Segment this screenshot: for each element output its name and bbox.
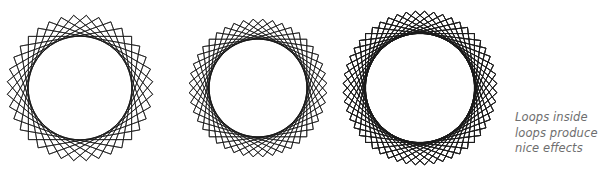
square-outline bbox=[343, 11, 497, 165]
square-outline bbox=[343, 11, 497, 165]
caption-line-3: nice effects bbox=[515, 141, 599, 157]
square-outline bbox=[189, 19, 327, 157]
square-outline bbox=[344, 12, 495, 163]
caption-block: Loops inside loops produce nice effects bbox=[515, 110, 599, 157]
square-outline bbox=[346, 14, 493, 161]
square-outline bbox=[7, 15, 152, 160]
square-outline bbox=[346, 14, 493, 161]
square-outline bbox=[189, 19, 327, 157]
square-outline bbox=[366, 34, 475, 143]
square-outline bbox=[203, 33, 313, 143]
square-outline bbox=[346, 14, 493, 161]
square-outline bbox=[354, 22, 486, 154]
square-outline bbox=[344, 12, 495, 163]
figure-panel-2 bbox=[189, 19, 327, 157]
square-outline bbox=[343, 11, 497, 165]
square-outline bbox=[20, 28, 140, 148]
square-outline bbox=[354, 22, 486, 154]
diagram-stage: Loops inside loops produce nice effects bbox=[0, 0, 599, 179]
square-outline bbox=[191, 21, 326, 156]
square-outline bbox=[346, 14, 493, 161]
square-outline bbox=[7, 15, 152, 160]
square-outline bbox=[354, 22, 486, 154]
square-outline bbox=[28, 36, 131, 139]
square-outline bbox=[189, 19, 327, 157]
square-outline bbox=[343, 11, 497, 165]
square-outline bbox=[9, 17, 150, 158]
square-outline bbox=[20, 28, 140, 148]
square-outline bbox=[193, 23, 322, 152]
square-outline bbox=[14, 22, 146, 154]
square-outline bbox=[9, 17, 150, 158]
square-outline bbox=[191, 21, 326, 156]
square-outline bbox=[346, 14, 493, 161]
square-outline bbox=[344, 12, 495, 163]
square-outline bbox=[7, 15, 152, 160]
square-outline bbox=[344, 12, 495, 163]
square-outline bbox=[193, 23, 322, 152]
square-outline bbox=[203, 33, 313, 143]
square-outline bbox=[344, 12, 495, 163]
caption-line-1: Loops inside bbox=[515, 110, 599, 126]
square-outline bbox=[197, 27, 318, 148]
square-outline bbox=[354, 22, 486, 154]
square-outline bbox=[209, 39, 307, 137]
square-outline bbox=[346, 14, 493, 161]
square-outline bbox=[9, 17, 150, 158]
square-outline bbox=[354, 22, 486, 154]
square-outline bbox=[366, 34, 475, 143]
square-outline bbox=[197, 27, 318, 148]
square-outline bbox=[354, 22, 486, 154]
square-outline bbox=[20, 28, 140, 148]
square-outline bbox=[9, 17, 150, 158]
square-outline bbox=[344, 12, 495, 163]
square-outline bbox=[193, 23, 322, 152]
square-outline bbox=[343, 11, 497, 165]
square-outline bbox=[193, 23, 322, 152]
spirograph-canvas bbox=[0, 0, 599, 179]
square-outline bbox=[7, 15, 152, 160]
square-outline bbox=[191, 21, 326, 156]
square-outline bbox=[20, 28, 140, 148]
square-outline bbox=[191, 21, 326, 156]
square-outline bbox=[343, 11, 497, 165]
figure-panel-3 bbox=[343, 11, 497, 165]
square-outline bbox=[14, 22, 146, 154]
square-outline bbox=[343, 11, 497, 165]
square-outline bbox=[197, 27, 318, 148]
square-outline bbox=[28, 36, 131, 139]
square-outline bbox=[203, 33, 313, 143]
square-outline bbox=[344, 12, 495, 163]
square-outline bbox=[189, 19, 327, 157]
square-outline bbox=[346, 14, 493, 161]
square-outline bbox=[14, 22, 146, 154]
square-outline bbox=[209, 39, 307, 137]
square-outline bbox=[346, 14, 493, 161]
square-outline bbox=[14, 22, 146, 154]
square-outline bbox=[354, 22, 486, 154]
square-outline bbox=[344, 12, 495, 163]
square-outline bbox=[203, 33, 313, 143]
square-outline bbox=[366, 34, 475, 143]
figure-panel-1 bbox=[7, 15, 152, 160]
square-outline bbox=[197, 27, 318, 148]
square-outline bbox=[343, 11, 497, 165]
square-outline bbox=[366, 34, 475, 143]
square-outline bbox=[354, 22, 486, 154]
caption-line-2: loops produce bbox=[515, 126, 599, 142]
